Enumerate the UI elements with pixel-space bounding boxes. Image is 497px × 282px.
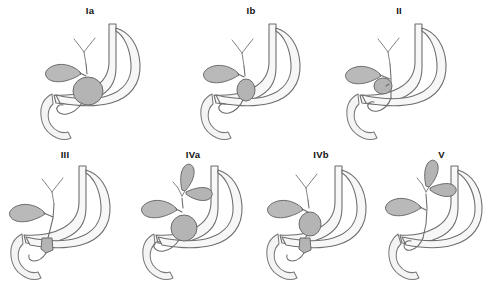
panel-ia-illustration (10, 6, 170, 146)
intrahepatic-ducts (42, 178, 63, 204)
panel-ivb: IVb (258, 150, 388, 282)
common-hepatic-duct (86, 64, 87, 74)
gallbladder (9, 204, 45, 221)
panel-iii: III (2, 150, 132, 282)
cyst-common-bile-duct-iva (171, 215, 197, 241)
gallbladder (141, 200, 177, 217)
distal-common-bile-duct (287, 253, 304, 261)
panel-label-iii: III (2, 150, 128, 160)
common-hepatic-duct (182, 198, 183, 208)
cyst-intrahepatic-left-v (425, 160, 438, 187)
gallbladder (385, 198, 421, 215)
panel-iva: IVa (130, 150, 260, 282)
panel-v-illustration (386, 150, 497, 282)
panel-label-ib: Ib (172, 6, 330, 16)
panel-label-ivb: IVb (258, 150, 384, 160)
stomach-shape (24, 166, 86, 244)
panel-label-ia: Ia (10, 6, 170, 16)
intrahepatic-ducts (232, 39, 253, 66)
panel-label-iva: IVa (130, 150, 256, 160)
cyst-intrahepatic-left-iva (181, 164, 194, 191)
panel-ivb-illustration (258, 150, 388, 282)
cyst-common-bile-duct-ivb (299, 212, 321, 236)
intrahepatic-ducts (74, 38, 95, 64)
cystic-duct (44, 213, 53, 217)
cyst-intrahepatic-right-v (430, 184, 456, 197)
gallbladder (203, 65, 239, 82)
cyst-intrahepatic-right-iva (186, 188, 212, 201)
panel-ii: II (334, 6, 492, 146)
cyst-common-bile-duct-ia (73, 77, 103, 105)
panel-iii-illustration (2, 150, 132, 282)
panel-v: V (386, 150, 497, 282)
panel-ia: Ia (10, 6, 170, 146)
gallbladder (45, 64, 81, 81)
intrahepatic-ducts (378, 38, 399, 64)
cyst-common-bile-duct-ib (237, 79, 255, 101)
common-hepatic-duct (244, 66, 245, 76)
gallbladder (267, 200, 303, 217)
panel-label-v: V (386, 150, 497, 160)
cyst-choledochocele-iii (41, 238, 53, 253)
panel-ib-illustration (172, 6, 330, 146)
panel-iva-illustration (130, 150, 260, 282)
panel-ib: Ib (172, 6, 330, 146)
distal-common-bile-duct (29, 253, 46, 261)
todani-classification-figure: Ia Ib (0, 0, 497, 282)
panel-label-ii: II (320, 6, 478, 16)
cyst-distal-ivb (299, 238, 311, 253)
cyst-diverticulum-ii (374, 78, 392, 94)
intrahepatic-ducts (296, 174, 317, 200)
panel-ii-illustration (334, 6, 492, 146)
common-hepatic-duct (308, 200, 309, 208)
